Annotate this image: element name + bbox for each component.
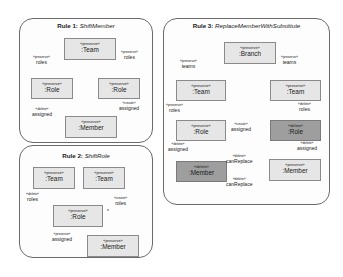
r2-marker: * bbox=[107, 208, 109, 214]
rule2-title-prefix: Rule 2: bbox=[62, 152, 83, 159]
r2-label-roles-create: «create»roles bbox=[114, 197, 127, 206]
r3-label-canreplace-bottom: «delete»canReplace bbox=[226, 178, 252, 187]
r3-node-member-delete[interactable]: «delete» :Member bbox=[176, 161, 227, 182]
r3-node-role-preserve[interactable]: «preserve» :Role bbox=[176, 120, 226, 141]
r3-label-assigned-left: «delete»assigned bbox=[168, 143, 188, 152]
r1-label-assigned-create: «create»assigned bbox=[119, 102, 139, 111]
rule3-title-name: ReplaceMemberWithSubstitute bbox=[215, 22, 300, 29]
r2-node-team-right[interactable]: «preserve» :Team bbox=[83, 167, 125, 189]
r3-node-team-left[interactable]: «preserve» :Team bbox=[176, 80, 226, 101]
r1-node-member[interactable]: «preserve» :Member bbox=[65, 116, 117, 138]
r1-node-role-right[interactable]: «preserve» :Role bbox=[98, 78, 140, 99]
r2-node-member[interactable]: «preserve» :Member bbox=[87, 235, 139, 257]
rule1-title: Rule 1: ShiftMember bbox=[19, 22, 153, 29]
r2-label-roles-delete: «delete»roles bbox=[26, 193, 39, 202]
r1-label-roles-right: «preserve»roles bbox=[121, 51, 138, 60]
rule1-title-prefix: Rule 1: bbox=[57, 22, 78, 29]
rule1-title-name: ShiftMember bbox=[80, 22, 115, 29]
r1-label-roles-left: «preserve»roles bbox=[33, 56, 50, 65]
r2-node-team-left[interactable]: «preserve» :Team bbox=[33, 167, 75, 189]
r3-label-teams-left: «preserve»teams bbox=[180, 60, 197, 69]
r3-label-assigned-create: «create»assigned bbox=[231, 123, 251, 132]
rule2-title: Rule 2: ShiftRole bbox=[19, 152, 153, 159]
r1-node-role-left[interactable]: «preserve» :Role bbox=[31, 78, 73, 99]
rule2-title-name: ShiftRole bbox=[85, 152, 110, 159]
r3-label-teams-right: «preserve»teams bbox=[281, 56, 298, 65]
r3-node-role-delete[interactable]: «delete» :Role bbox=[270, 120, 321, 141]
r2-node-role[interactable]: «preserve» :Role bbox=[53, 205, 103, 227]
r3-node-branch[interactable]: «preserve» :Branch bbox=[224, 42, 276, 64]
rule3-title-prefix: Rule 3: bbox=[193, 22, 214, 29]
r3-node-member-preserve[interactable]: «preserve» :Member bbox=[269, 159, 321, 181]
r3-node-team-right[interactable]: «preserve» :Team bbox=[270, 80, 321, 101]
r3-label-canreplace-top: «delete»canReplace bbox=[226, 155, 252, 164]
r3-label-roles-left: «preserve»roles bbox=[166, 104, 183, 113]
r3-label-roles-right: «delete»roles bbox=[298, 103, 311, 112]
rule3-title: Rule 3: ReplaceMemberWithSubstitute bbox=[163, 22, 330, 29]
r3-label-assigned-right: «delete»assigned bbox=[297, 142, 317, 151]
r2-label-assigned-preserve: «preserve»assigned bbox=[52, 233, 72, 242]
r1-label-assigned-delete: «delete»assigned bbox=[32, 108, 52, 117]
r1-node-team[interactable]: «preserve» :Team bbox=[64, 38, 116, 60]
